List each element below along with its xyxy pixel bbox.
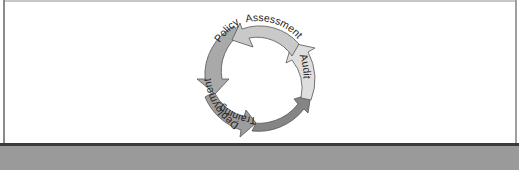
arrow-training-shape xyxy=(247,94,311,131)
cycle-diagram: Assessment Policy Deployment Training Au… xyxy=(0,0,519,145)
frame-bottom-strip xyxy=(0,146,519,170)
arrow-training xyxy=(247,94,311,131)
